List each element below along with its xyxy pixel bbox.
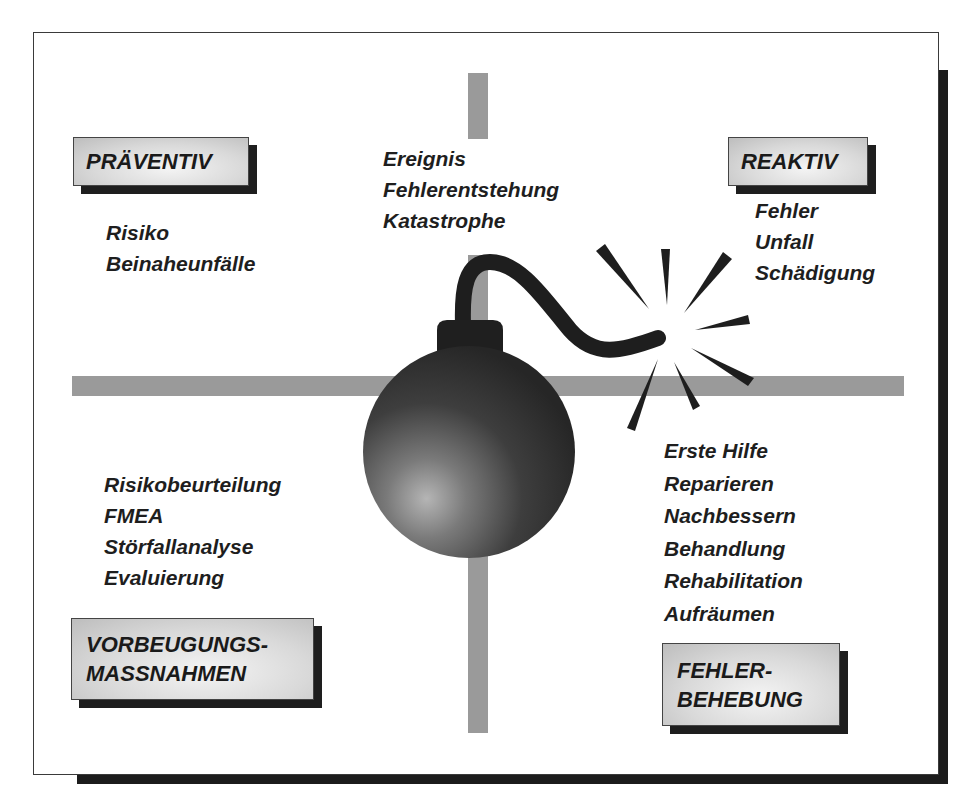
- label-behebung: BEHEBUNG: [677, 685, 839, 714]
- list-item: Risiko: [106, 217, 255, 248]
- list-item: Nachbessern: [664, 500, 803, 533]
- label-box-reaktiv: REAKTIV: [728, 137, 868, 186]
- list-item: Fehler: [755, 195, 875, 226]
- list-item: Beinaheunfälle: [106, 248, 255, 279]
- list-item: Reparieren: [664, 468, 803, 501]
- label-massnahmen: MASSNAHMEN: [86, 659, 313, 688]
- list-item: Behandlung: [664, 533, 803, 566]
- list-item: Evaluierung: [104, 562, 281, 593]
- label-vorbeugungs: VORBEUGUNGS-: [86, 630, 313, 659]
- label-box-fehlerbehebung: FEHLER- BEHEBUNG: [662, 643, 840, 726]
- list-item: Schädigung: [755, 257, 875, 288]
- list-item: Unfall: [755, 226, 875, 257]
- label-praeventiv: PRÄVENTIV: [86, 147, 248, 176]
- list-item: Ereignis: [383, 143, 559, 174]
- list-item: Störfallanalyse: [104, 531, 281, 562]
- list-fehlerbehebung: Erste Hilfe Reparieren Nachbessern Behan…: [664, 435, 803, 630]
- list-item: Risikobeurteilung: [104, 469, 281, 500]
- list-item: Rehabilitation: [664, 565, 803, 598]
- list-item: Katastrophe: [383, 205, 559, 236]
- list-item: FMEA: [104, 500, 281, 531]
- list-item: Erste Hilfe: [664, 435, 803, 468]
- list-reaktiv: Fehler Unfall Schädigung: [755, 195, 875, 288]
- label-box-praeventiv: PRÄVENTIV: [73, 137, 249, 186]
- label-fehler: FEHLER-: [677, 656, 839, 685]
- list-praeventiv: Risiko Beinaheunfälle: [106, 217, 255, 279]
- list-ereignis: Ereignis Fehlerentstehung Katastrophe: [383, 143, 559, 236]
- list-vorbeugungsmassnahmen: Risikobeurteilung FMEA Störfallanalyse E…: [104, 469, 281, 593]
- label-reaktiv: REAKTIV: [741, 147, 867, 176]
- list-item: Fehlerentstehung: [383, 174, 559, 205]
- label-box-vorbeugungsmassnahmen: VORBEUGUNGS- MASSNAHMEN: [71, 618, 314, 700]
- spark-icon: [596, 244, 754, 431]
- list-item: Aufräumen: [664, 598, 803, 631]
